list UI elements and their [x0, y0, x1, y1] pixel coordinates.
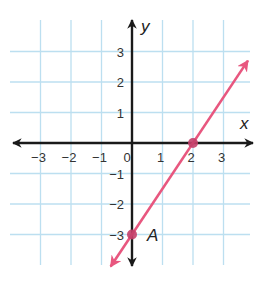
x-tick-label: −1: [92, 150, 107, 165]
point-x-intercept: [188, 138, 198, 148]
coordinate-plane: −3−2−10123321−1−2−3 A x y: [0, 0, 265, 282]
y-axis-label: y: [140, 17, 151, 36]
x-tick-label: −2: [62, 150, 77, 165]
y-tick-label: −2: [109, 197, 124, 212]
x-tick-label: 3: [218, 150, 225, 165]
x-tick-label: 1: [157, 150, 164, 165]
y-tick-label: 3: [117, 45, 124, 60]
point-A: [127, 230, 137, 240]
axes: [13, 20, 253, 266]
x-tick-label: −3: [31, 150, 46, 165]
y-tick-label: −3: [109, 228, 124, 243]
x-tick-label: 2: [187, 150, 194, 165]
x-tick-label: 0: [123, 150, 130, 165]
x-axis-label: x: [239, 114, 249, 133]
y-tick-label: 1: [117, 106, 124, 121]
y-tick-label: 2: [117, 75, 124, 90]
y-tick-label: −1: [109, 167, 124, 182]
point-label: A: [146, 226, 158, 245]
